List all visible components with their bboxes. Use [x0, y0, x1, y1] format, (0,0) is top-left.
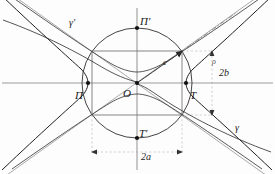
label-pi-left: Π	[75, 90, 83, 101]
point-pi-left	[86, 81, 90, 85]
hyperbola-branch-right	[186, 0, 272, 170]
label-major-axis-2a: 2a	[141, 152, 151, 162]
coordinate-axes	[2, 8, 273, 170]
label-gamma: γ	[235, 123, 239, 133]
point-pi-top	[135, 26, 139, 30]
label-origin: O	[123, 88, 131, 99]
gamma-curve	[137, 84, 271, 152]
hyperbola-figure: Π′ Π T T′ O c γ′ γ ρ 2b 2a	[0, 0, 275, 174]
label-t-right: T	[190, 90, 196, 101]
label-rho: ρ	[212, 58, 216, 66]
gamma-path	[137, 84, 271, 152]
label-pi-top: Π′	[140, 16, 150, 27]
point-t-right	[184, 81, 188, 85]
label-t-bottom: T′	[139, 128, 148, 139]
diagram-canvas	[0, 0, 275, 174]
label-gamma-prime: γ′	[69, 18, 75, 28]
label-focal-c: c	[163, 58, 167, 67]
point-origin	[135, 81, 139, 85]
label-minor-axis-2b: 2b	[219, 68, 229, 78]
